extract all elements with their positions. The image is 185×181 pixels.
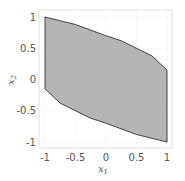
x-tick-label: -1: [40, 152, 50, 163]
x-tick-label: 0.5: [129, 152, 145, 163]
y-tick-label: -0.5: [16, 105, 36, 116]
y-tick-label: 0.5: [20, 43, 36, 54]
y-axis-label: x2: [5, 74, 18, 85]
x-tick-label: -0.5: [66, 152, 86, 163]
x-tick-label: 0: [103, 152, 109, 163]
y-tick-label: -1: [26, 137, 36, 148]
x-tick-labels: -1-0.500.51: [40, 152, 170, 163]
chart: -1-0.500.51 -1-0.500.51 x1 x2: [0, 0, 185, 181]
x-axis-label: x1: [98, 163, 108, 176]
y-tick-labels: -1-0.500.51: [16, 12, 36, 148]
y-tick-label: 1: [30, 12, 36, 23]
y-tick-label: 0: [30, 74, 36, 85]
region-polygon: [45, 17, 167, 142]
x-tick-label: 1: [164, 152, 170, 163]
